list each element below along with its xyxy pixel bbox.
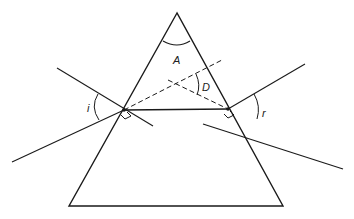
- deviation-angle-label: D: [202, 81, 210, 93]
- incident-ray: [12, 110, 124, 162]
- apex-angle-arc: [163, 41, 190, 45]
- left-right-angle-marker: [121, 112, 131, 119]
- entry-point: [122, 108, 126, 112]
- prism-diagram: A i D r: [0, 0, 354, 219]
- emergence-angle-arc: [254, 94, 258, 119]
- incidence-angle-label: i: [87, 102, 90, 114]
- left-normal: [57, 68, 153, 126]
- emergent-extension-dashed: [168, 80, 228, 109]
- exit-point: [226, 107, 230, 111]
- internal-ray: [124, 109, 228, 110]
- emergence-angle-label: r: [262, 107, 267, 119]
- incidence-angle-arc: [94, 94, 99, 120]
- emergent-ray: [228, 64, 305, 109]
- right-normal: [203, 124, 343, 169]
- deviation-angle-arc: [196, 74, 199, 95]
- apex-angle-label: A: [172, 54, 180, 66]
